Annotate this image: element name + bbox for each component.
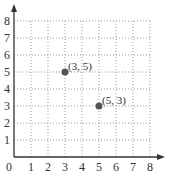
y-tick-labels: 12345678 bbox=[4, 14, 10, 147]
x-tick-label: 6 bbox=[113, 160, 119, 174]
y-axis-arrow-icon bbox=[11, 4, 17, 12]
x-tick-label: 2 bbox=[45, 160, 51, 174]
data-point-label: (3, 5) bbox=[68, 60, 92, 73]
data-point-label: (5, 3) bbox=[102, 94, 126, 107]
x-tick-label: 4 bbox=[79, 160, 85, 174]
y-tick-label: 3 bbox=[4, 99, 10, 113]
y-tick-label: 1 bbox=[4, 133, 10, 147]
y-tick-label: 6 bbox=[4, 48, 10, 62]
coordinate-plane: 012345678 12345678 (3, 5)(5, 3) bbox=[0, 0, 170, 174]
x-tick-label: 7 bbox=[130, 160, 136, 174]
y-tick-label: 8 bbox=[4, 14, 10, 28]
x-tick-label: 0 bbox=[6, 160, 12, 174]
x-tick-label: 8 bbox=[147, 160, 153, 174]
x-tick-label: 1 bbox=[28, 160, 34, 174]
x-tick-labels: 012345678 bbox=[6, 160, 153, 174]
x-tick-label: 3 bbox=[62, 160, 68, 174]
y-tick-label: 2 bbox=[4, 116, 10, 130]
grid-lines bbox=[14, 21, 150, 157]
x-tick-label: 5 bbox=[96, 160, 102, 174]
axes bbox=[11, 4, 165, 160]
y-tick-label: 4 bbox=[4, 82, 10, 96]
y-tick-label: 5 bbox=[4, 65, 10, 79]
y-tick-label: 7 bbox=[4, 31, 10, 45]
x-axis-arrow-icon bbox=[157, 154, 165, 160]
